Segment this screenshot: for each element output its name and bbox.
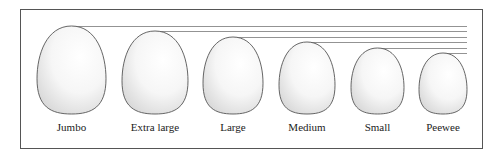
egg-label: Peewee <box>393 121 493 133</box>
egg-jumbo <box>37 26 106 114</box>
egg-large <box>203 37 263 114</box>
egg-small <box>351 48 404 114</box>
egg-peewee <box>419 53 467 114</box>
egg-medium <box>279 42 335 114</box>
egg-extra-large <box>122 31 188 114</box>
